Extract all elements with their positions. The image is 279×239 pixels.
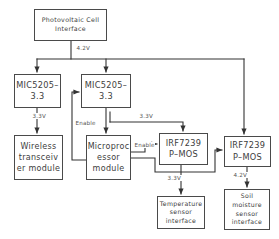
- node-label: IRF7239 P–MOS: [225, 140, 270, 163]
- node-label: Wireless transceiv er module: [15, 141, 62, 174]
- wire-label-mic-left-out: 3.3V: [32, 113, 47, 119]
- node-label: MIC5205– 3.3: [82, 80, 130, 103]
- block-diagram-canvas: Photovoltaic Cell Interface MIC5205– 3.3…: [0, 0, 279, 239]
- node-soil-moisture-sensor-interface[interactable]: Soil moisture sensor interface: [224, 189, 270, 230]
- node-wireless-transceiver-module[interactable]: Wireless transceiv er module: [14, 135, 63, 180]
- node-irf7239-pmos-right[interactable]: IRF7239 P–MOS: [224, 136, 271, 167]
- wire-label-mic-right-out: 3.3V: [139, 113, 154, 119]
- wire-label-enable-mic: Enable: [75, 120, 96, 126]
- node-irf7239-pmos-center[interactable]: IRF7239 P–MOS: [159, 133, 208, 165]
- node-label: Microproc essor module: [87, 141, 131, 174]
- wire-label-enable-mos: Enable: [134, 142, 155, 148]
- node-label: Soil moisture sensor interface: [225, 192, 269, 226]
- node-photovoltaic-cell-interface[interactable]: Photovoltaic Cell Interface: [34, 9, 107, 41]
- node-mic5205-right[interactable]: MIC5205– 3.3: [81, 74, 131, 108]
- wire-label-pv-out: 4.2V: [76, 45, 91, 51]
- node-label: Temperature sensor interface: [158, 200, 204, 226]
- node-temperature-sensor-interface[interactable]: Temperature sensor interface: [157, 196, 205, 229]
- node-microprocessor-module[interactable]: Microproc essor module: [86, 135, 131, 180]
- node-label: MIC5205– 3.3: [15, 80, 60, 103]
- node-label: IRF7239 P–MOS: [160, 138, 207, 161]
- wire-label-mos-right-out: 4.2V: [233, 172, 248, 178]
- node-label: Photovoltaic Cell Interface: [35, 16, 106, 33]
- wire-label-mos-center-out: 3.3V: [167, 175, 182, 181]
- node-mic5205-left[interactable]: MIC5205– 3.3: [14, 74, 61, 108]
- wire-mic-right-to-mos-center: [110, 122, 183, 131]
